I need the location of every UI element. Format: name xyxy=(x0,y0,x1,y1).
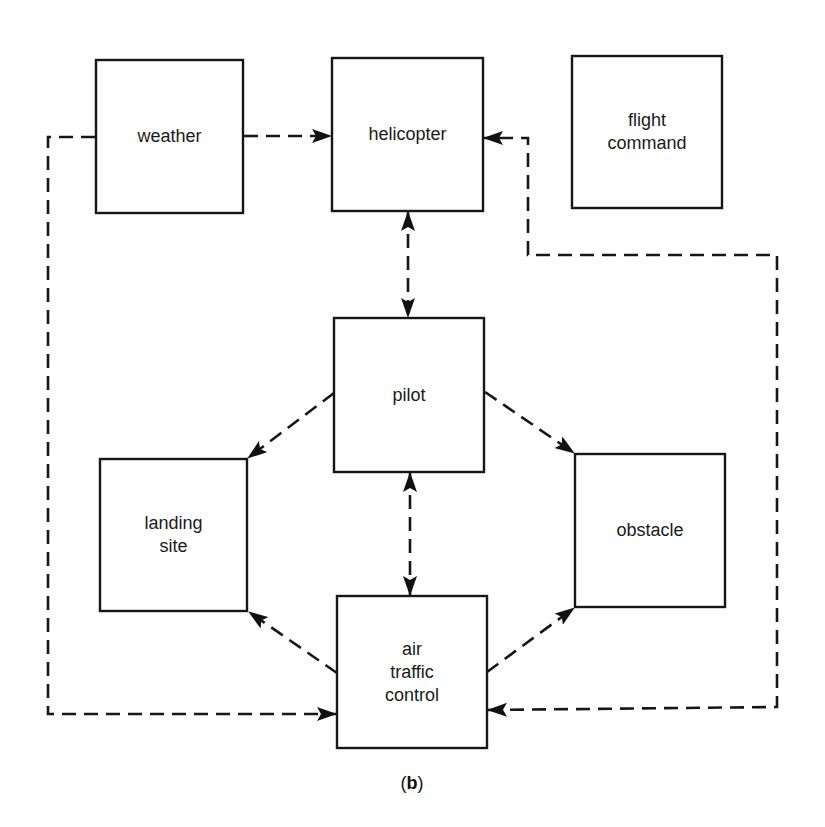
figure-caption: (b) xyxy=(382,773,442,794)
connector-atc-to-obstacle xyxy=(487,608,574,672)
node-box-weather xyxy=(96,60,243,213)
nodes xyxy=(96,56,725,748)
node-box-flight-command xyxy=(572,56,722,208)
diagram-canvas xyxy=(0,0,825,827)
node-box-obstacle xyxy=(575,454,725,607)
connector-atc-helicopter-loop xyxy=(484,138,777,710)
connector-atc-to-landing-site xyxy=(249,612,337,673)
node-box-helicopter xyxy=(332,58,483,211)
node-box-landing-site xyxy=(100,459,247,611)
caption-close-paren: ) xyxy=(418,773,424,793)
caption-letter: b xyxy=(407,773,418,793)
connector-pilot-to-landing-site xyxy=(248,393,334,458)
node-box-pilot xyxy=(334,318,484,472)
node-box-air-traffic-control xyxy=(337,596,487,748)
connector-pilot-to-obstacle xyxy=(485,392,574,453)
